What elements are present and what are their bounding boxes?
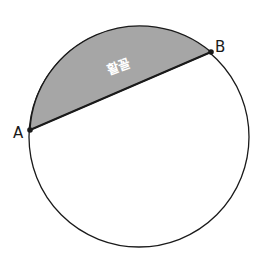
label-b: B bbox=[215, 38, 225, 56]
point-a bbox=[27, 127, 33, 133]
circle-segment-diagram: A B 활꼴 bbox=[0, 0, 264, 266]
label-a: A bbox=[13, 124, 24, 142]
point-b bbox=[208, 49, 214, 55]
